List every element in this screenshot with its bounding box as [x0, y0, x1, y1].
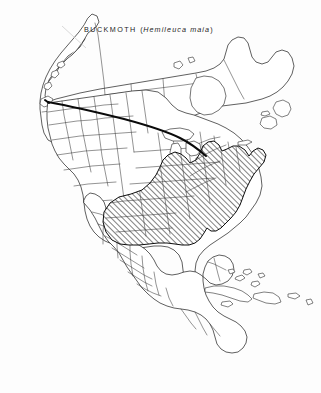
hispaniola [253, 292, 281, 304]
map-canvas [0, 0, 321, 393]
species-common-name: BUCKMOTH [84, 25, 137, 34]
newfoundland [273, 100, 291, 117]
bahamas-b [243, 269, 252, 275]
figure-title: BUCKMOTH (Hemileuca maia) [84, 25, 213, 34]
puerto-rico [288, 293, 300, 299]
nova-scotia [260, 116, 277, 129]
jamaica [221, 301, 233, 307]
lesser-antilles [306, 299, 313, 305]
species-scientific-name: Hemileuca maia [143, 25, 210, 34]
range-map-figure [0, 0, 321, 393]
bahamas-e [258, 273, 265, 278]
arctic-islet-b [188, 57, 195, 63]
cuba [205, 286, 252, 302]
prince-edward-island [261, 111, 270, 116]
close-paren: ) [210, 25, 213, 34]
bahamas-c [251, 281, 260, 287]
arctic-islet-a [174, 61, 183, 69]
figure-page: BUCKMOTH (Hemileuca maia) [0, 0, 321, 393]
bahamas-a [235, 275, 245, 281]
